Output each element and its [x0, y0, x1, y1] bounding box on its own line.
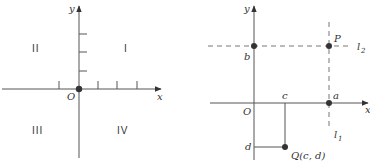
quadrant-label-ii: II: [32, 43, 40, 54]
quadrant-label-iii: III: [32, 125, 43, 136]
x-axis-ticks: [59, 81, 137, 89]
p-label: P: [333, 33, 341, 44]
x-axis-label: x: [157, 91, 163, 102]
y-axis-label: y: [243, 3, 250, 14]
q-label: Q(c, d): [291, 150, 325, 161]
coordinate-diagrams: y x O II I III IV y x O b P c a d Q(c, d…: [0, 0, 370, 168]
svg-text:l: l: [357, 41, 360, 52]
quadrant-label-i: I: [124, 43, 128, 54]
b-label: b: [244, 51, 250, 62]
point-a: [326, 100, 332, 106]
c-label: c: [282, 90, 288, 101]
l1-label: l 1: [334, 129, 342, 143]
x-axis-label: x: [365, 104, 370, 115]
point-p: [326, 43, 332, 49]
point-q: [282, 144, 288, 150]
a-label: a: [333, 90, 339, 101]
y-axis-label: y: [68, 3, 75, 14]
point-coordinates-diagram: y x O b P c a d Q(c, d) l 2 l 1: [208, 3, 370, 161]
origin-label: O: [67, 91, 75, 102]
y-axis-ticks: [79, 34, 87, 71]
point-b: [251, 43, 257, 49]
origin-point: [76, 86, 82, 92]
l2-label: l 2: [357, 41, 366, 55]
svg-text:2: 2: [360, 47, 366, 55]
svg-text:1: 1: [338, 135, 342, 143]
d-label: d: [245, 141, 251, 152]
quadrant-label-iv: IV: [117, 125, 128, 136]
quadrant-diagram: y x O II I III IV: [2, 3, 163, 158]
svg-text:l: l: [334, 129, 337, 140]
origin-label: O: [243, 106, 251, 117]
